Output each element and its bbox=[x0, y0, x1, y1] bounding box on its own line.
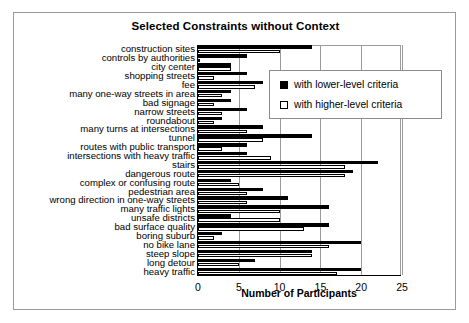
bar-lower-level-criteria bbox=[198, 179, 231, 182]
bar-lower-level-criteria bbox=[198, 214, 231, 217]
bar-lower-level-criteria bbox=[198, 117, 222, 120]
bar-higher-level-criteria bbox=[198, 201, 247, 204]
bar-lower-level-criteria bbox=[198, 90, 231, 93]
bar-lower-level-criteria bbox=[198, 99, 231, 102]
chart-row: wrong direction in one-way streets bbox=[198, 196, 401, 205]
bar-lower-level-criteria bbox=[198, 241, 361, 244]
bar-higher-level-criteria bbox=[198, 67, 231, 70]
bar-lower-level-criteria bbox=[198, 63, 231, 66]
bar-lower-level-criteria bbox=[198, 250, 312, 253]
hollow-square-icon bbox=[280, 101, 288, 109]
chart-row: bad surface quality bbox=[198, 223, 401, 232]
bar-higher-level-criteria bbox=[198, 50, 280, 53]
chart-row: controls by authorities bbox=[198, 54, 401, 63]
legend-entry-lower-level: with lower-level criteria bbox=[280, 79, 398, 90]
bar-higher-level-criteria bbox=[198, 94, 222, 97]
bar-higher-level-criteria bbox=[198, 138, 263, 141]
bar-higher-level-criteria bbox=[198, 76, 214, 79]
bar-lower-level-criteria bbox=[198, 268, 361, 271]
bar-higher-level-criteria bbox=[198, 174, 345, 177]
bar-higher-level-criteria bbox=[198, 245, 329, 248]
chart-row: long detour bbox=[198, 258, 401, 267]
legend-label: with higher-level criteria bbox=[294, 99, 402, 110]
bar-lower-level-criteria bbox=[198, 45, 312, 48]
category-label: heavy traffic bbox=[143, 267, 195, 277]
chart-title: Selected Constraints without Context bbox=[14, 20, 457, 32]
bar-lower-level-criteria bbox=[198, 81, 263, 84]
bar-lower-level-criteria bbox=[198, 108, 247, 111]
bar-lower-level-criteria bbox=[198, 143, 247, 146]
bar-lower-level-criteria bbox=[198, 54, 247, 57]
legend-entry-higher-level: with higher-level criteria bbox=[280, 99, 402, 110]
bar-higher-level-criteria bbox=[198, 85, 255, 88]
bar-higher-level-criteria bbox=[198, 272, 337, 275]
chart-row: many traffic lights bbox=[198, 205, 401, 214]
bar-lower-level-criteria bbox=[198, 152, 247, 155]
bar-higher-level-criteria bbox=[198, 227, 304, 230]
bar-lower-level-criteria bbox=[198, 259, 255, 262]
bar-higher-level-criteria bbox=[198, 254, 312, 257]
chart-figure: Selected Constraints without Context con… bbox=[13, 12, 456, 310]
x-axis-title: Number of Participants bbox=[197, 287, 401, 299]
bar-lower-level-criteria bbox=[198, 134, 312, 137]
bar-higher-level-criteria bbox=[198, 236, 214, 239]
bar-higher-level-criteria bbox=[198, 165, 345, 168]
bar-higher-level-criteria bbox=[198, 218, 280, 221]
chart-row: heavy traffic bbox=[198, 267, 401, 276]
bar-lower-level-criteria bbox=[198, 223, 329, 226]
bar-higher-level-criteria bbox=[198, 121, 214, 124]
bar-lower-level-criteria bbox=[198, 205, 329, 208]
bar-higher-level-criteria bbox=[198, 147, 222, 150]
chart-row: intersections with heavy traffic bbox=[198, 152, 401, 161]
bar-lower-level-criteria bbox=[198, 232, 222, 235]
chart-row: tunnel bbox=[198, 134, 401, 143]
bar-higher-level-criteria bbox=[198, 112, 222, 115]
bar-lower-level-criteria bbox=[198, 170, 353, 173]
bar-higher-level-criteria bbox=[198, 183, 239, 186]
chart-row: no bike lane bbox=[198, 240, 401, 249]
bar-lower-level-criteria bbox=[198, 188, 263, 191]
chart-row: boring suburb bbox=[198, 232, 401, 241]
chart-row: complex or confusing route bbox=[198, 178, 401, 187]
chart-legend: with lower-level criteria with higher-le… bbox=[269, 70, 442, 119]
bar-lower-level-criteria bbox=[198, 72, 247, 75]
bar-lower-level-criteria bbox=[198, 196, 288, 199]
bar-higher-level-criteria bbox=[198, 103, 214, 106]
chart-row: construction sites bbox=[198, 45, 401, 54]
chart-row: unsafe districts bbox=[198, 214, 401, 223]
chart-row: stairs bbox=[198, 161, 401, 170]
bar-lower-level-criteria bbox=[198, 125, 263, 128]
chart-row: dangerous route bbox=[198, 169, 401, 178]
bar-higher-level-criteria bbox=[198, 263, 239, 266]
bar-higher-level-criteria bbox=[198, 156, 271, 159]
filled-square-icon bbox=[280, 81, 288, 89]
bar-higher-level-criteria bbox=[198, 210, 280, 213]
legend-label: with lower-level criteria bbox=[294, 79, 398, 90]
chart-row: pedestrian area bbox=[198, 187, 401, 196]
chart-row: steep slope bbox=[198, 249, 401, 258]
bar-lower-level-criteria bbox=[198, 161, 378, 164]
chart-row: routes with public transport bbox=[198, 143, 401, 152]
chart-row: many turns at intersections bbox=[198, 125, 401, 134]
bar-higher-level-criteria bbox=[198, 59, 200, 62]
bar-higher-level-criteria bbox=[198, 192, 247, 195]
bar-higher-level-criteria bbox=[198, 130, 247, 133]
